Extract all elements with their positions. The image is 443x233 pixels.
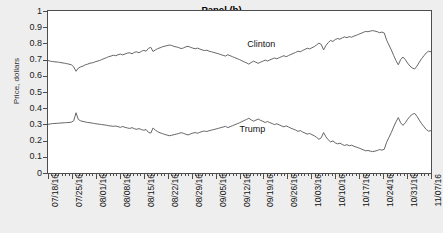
y-tick-mark — [43, 173, 47, 174]
y-tick-label: 0.9 — [16, 23, 42, 32]
y-tick-mark — [43, 108, 47, 109]
x-tick-label: 09/26/16 — [290, 174, 299, 230]
x-tick-label: 09/19/16 — [266, 174, 275, 230]
chart-screenshot: Panel (b) Price, dollars 00.10.20.30.40.… — [0, 0, 443, 233]
x-tick-label: 11/07/16 — [434, 174, 443, 230]
y-tick-label: 0.8 — [16, 39, 42, 48]
y-tick-label: 1 — [16, 7, 42, 16]
y-tick-label: 0 — [16, 169, 42, 178]
plot-area — [47, 10, 432, 174]
x-tick-label: 07/18/16 — [51, 174, 60, 230]
x-tick-label: 07/25/16 — [75, 174, 84, 230]
y-tick-mark — [43, 141, 47, 142]
series-label-trump: Trump — [240, 124, 266, 134]
x-tick-label: 10/03/16 — [314, 174, 323, 230]
y-tick-label: 0.3 — [16, 120, 42, 129]
y-tick-mark — [43, 92, 47, 93]
series-label-clinton: Clinton — [247, 39, 275, 49]
y-tick-mark — [43, 43, 47, 44]
y-tick-mark — [43, 11, 47, 12]
y-tick-label: 0.2 — [16, 136, 42, 145]
y-tick-label: 0.4 — [16, 104, 42, 113]
x-tick-label: 08/22/16 — [171, 174, 180, 230]
line-series-clinton — [48, 31, 431, 72]
y-tick-mark — [43, 157, 47, 158]
y-tick-mark — [43, 124, 47, 125]
x-tick-label: 10/31/16 — [410, 174, 419, 230]
x-tick-label: 10/10/16 — [338, 174, 347, 230]
x-tick-label: 08/08/16 — [123, 174, 132, 230]
x-tick-label: 10/17/16 — [362, 174, 371, 230]
series-lines — [48, 11, 431, 173]
x-tick-label: 08/29/16 — [195, 174, 204, 230]
y-tick-label: 0.7 — [16, 55, 42, 64]
x-tick-label: 08/01/16 — [99, 174, 108, 230]
y-tick-label: 0.6 — [16, 71, 42, 80]
x-tick-label: 09/05/16 — [219, 174, 228, 230]
x-tick-label: 09/12/16 — [243, 174, 252, 230]
y-tick-label: 0.5 — [16, 88, 42, 97]
y-tick-mark — [43, 76, 47, 77]
x-tick-label: 08/15/16 — [147, 174, 156, 230]
y-tick-mark — [43, 60, 47, 61]
y-tick-label: 0.1 — [16, 152, 42, 161]
x-tick-label: 10/24/16 — [386, 174, 395, 230]
y-tick-mark — [43, 27, 47, 28]
x-axis-tick-labels: 07/18/1607/25/1608/01/1608/08/1608/15/16… — [47, 176, 432, 233]
y-axis-tick-labels: 00.10.20.30.40.50.60.70.80.91 — [12, 0, 42, 233]
